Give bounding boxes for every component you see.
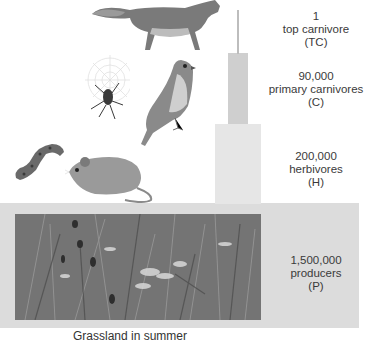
level-h-count: 200,000 <box>256 150 368 163</box>
caterpillar-illustration <box>12 138 67 183</box>
level-h-abbr: (H) <box>256 176 368 189</box>
level-c-name: primary carnivores <box>256 83 368 96</box>
level-p-name: producers <box>256 267 368 280</box>
level-c-abbr: (C) <box>256 96 368 109</box>
top-carnivore-bar <box>237 10 239 54</box>
level-p-count: 1,500,000 <box>256 254 368 267</box>
fox-illustration <box>90 0 225 55</box>
mouse-illustration <box>65 150 155 205</box>
kestrel-illustration <box>133 58 198 148</box>
spider-illustration <box>85 55 130 130</box>
primary-carnivores-bar <box>228 53 248 124</box>
level-h-name: herbivores <box>256 163 368 176</box>
level-tc-name: top carnivore <box>256 23 368 36</box>
figure-caption: Grassland in summer <box>0 329 260 341</box>
level-tc-count: 1 <box>256 10 368 23</box>
level-tc-label: 1 top carnivore (TC) <box>256 10 368 49</box>
level-p-label: 1,500,000 producers (P) <box>256 254 368 293</box>
level-tc-abbr: (TC) <box>256 36 368 49</box>
level-p-abbr: (P) <box>256 280 368 293</box>
level-c-count: 90,000 <box>256 70 368 83</box>
grassland-photo <box>15 214 261 320</box>
level-c-label: 90,000 primary carnivores (C) <box>256 70 368 109</box>
level-h-label: 200,000 herbivores (H) <box>256 150 368 189</box>
herbivores-bar <box>215 124 261 204</box>
